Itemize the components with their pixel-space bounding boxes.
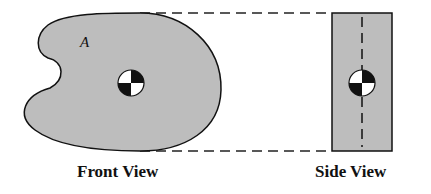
front-view-label: Front View: [77, 162, 158, 182]
side-view-label: Side View: [315, 162, 386, 182]
diagram: A Front View Side View: [0, 0, 431, 194]
side-centroid-icon: [349, 70, 375, 96]
front-centroid-icon: [118, 70, 144, 96]
area-label: A: [80, 34, 89, 51]
